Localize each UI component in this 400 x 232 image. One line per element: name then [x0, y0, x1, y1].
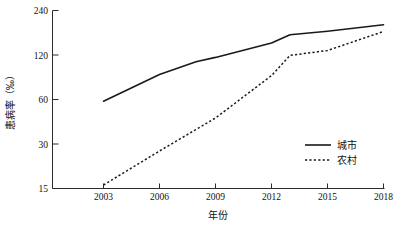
- y-tick-label-240: 240: [34, 6, 49, 16]
- x-tick-label-2003: 2003: [94, 192, 113, 202]
- x-tick-label-2009: 2009: [206, 192, 225, 202]
- chart-legend: 城市 农村: [305, 139, 357, 166]
- y-tick-labels: 240 120 60 30 15: [34, 6, 49, 194]
- y-tick-label-120: 120: [34, 51, 49, 61]
- prevalence-line-chart: 240 120 60 30 15 2003 2006 2009 2012 201…: [0, 0, 400, 232]
- x-tick-labels: 2003 2006 2009 2012 2015 2018: [94, 192, 393, 202]
- x-tick-label-2012: 2012: [262, 192, 281, 202]
- series-line-urban: [104, 25, 384, 101]
- x-tick-label-2006: 2006: [150, 192, 169, 202]
- legend-label-rural: 农村: [337, 154, 357, 166]
- y-tick-marks: [53, 11, 59, 189]
- x-tick-marks: [104, 184, 384, 189]
- y-axis-title: 患病率（‰）: [4, 70, 16, 130]
- y-tick-label-15: 15: [39, 184, 49, 194]
- y-tick-label-30: 30: [39, 140, 49, 150]
- legend-label-urban: 城市: [337, 139, 357, 151]
- x-axis-title: 年份: [208, 209, 228, 221]
- x-tick-label-2015: 2015: [318, 192, 337, 202]
- axis-group: [53, 11, 385, 189]
- y-tick-label-60: 60: [39, 95, 49, 105]
- chart-figure: 240 120 60 30 15 2003 2006 2009 2012 201…: [0, 0, 400, 232]
- x-tick-label-2018: 2018: [374, 192, 393, 202]
